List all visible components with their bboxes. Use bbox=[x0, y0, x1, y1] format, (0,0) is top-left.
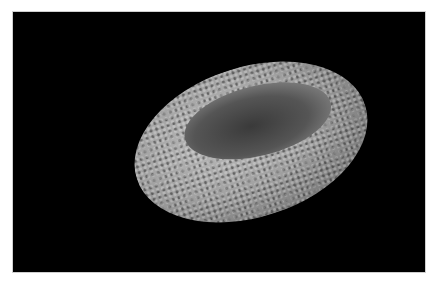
mortar-hollow bbox=[177, 69, 339, 173]
stone-mortar bbox=[114, 34, 389, 251]
caption bbox=[14, 275, 424, 282]
photo bbox=[12, 11, 426, 273]
